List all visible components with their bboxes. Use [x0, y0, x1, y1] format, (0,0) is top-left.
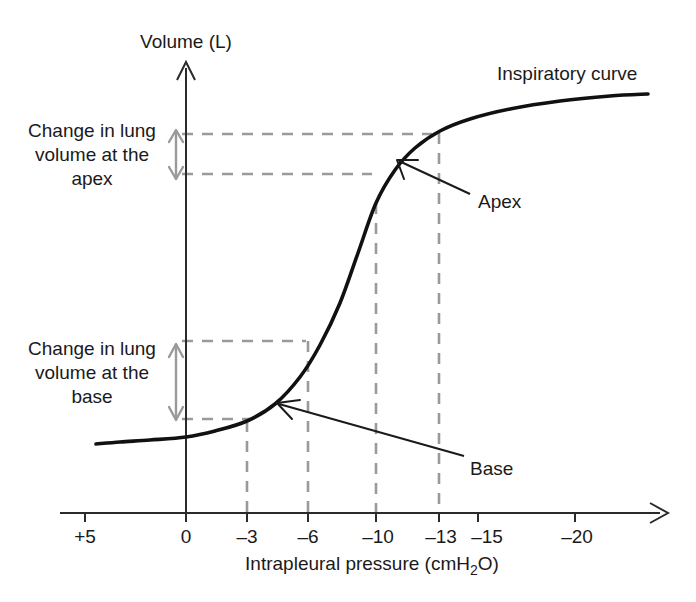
base-change-note-line1: Change in lung — [28, 338, 156, 359]
x-axis-title-main: Intrapleural pressure (cmH — [245, 553, 470, 574]
y-axis-title: Volume (L) — [140, 31, 232, 52]
x-axis-title-tail: O) — [478, 553, 499, 574]
x-tick-label-minus3: –3 — [236, 526, 257, 547]
x-tick-label-plus5: +5 — [74, 526, 96, 547]
x-tick-label-minus15: –15 — [471, 526, 503, 547]
base-change-note-line3: base — [71, 386, 112, 407]
apex-change-note-line3: apex — [71, 168, 113, 189]
base-pointer — [277, 400, 464, 456]
compliance-chart: Volume (L) Intrapleural pressure (cmH2O)… — [0, 0, 696, 602]
apex-change-span-arrow — [169, 130, 183, 179]
apex-change-note: Change in lung volume at the apex — [28, 120, 156, 189]
base-change-span-arrow — [169, 344, 183, 420]
x-tick-label-minus20: –20 — [561, 526, 593, 547]
inspiratory-curve-group — [96, 94, 648, 444]
apex-pointer-shaft — [399, 161, 470, 194]
x-tick-labels: +5 0 –3 –6 –10 –13 –15 –20 — [74, 526, 593, 547]
apex-label: Apex — [478, 191, 522, 212]
apex-change-note-line1: Change in lung — [28, 120, 156, 141]
x-axis-title: Intrapleural pressure (cmH2O) — [245, 553, 499, 578]
inspiratory-curve-path — [96, 94, 648, 444]
lung-compliance-figure: Volume (L) Intrapleural pressure (cmH2O)… — [0, 0, 696, 602]
x-tick-label-minus6: –6 — [297, 526, 318, 547]
x-tick-label-zero: 0 — [181, 526, 192, 547]
base-change-note-line2: volume at the — [35, 362, 149, 383]
apex-change-note-line2: volume at the — [35, 144, 149, 165]
base-change-note: Change in lung volume at the base — [28, 338, 156, 407]
x-tick-label-minus13: –13 — [425, 526, 457, 547]
inspiratory-curve-label: Inspiratory curve — [497, 63, 637, 84]
apex-pointer — [397, 160, 470, 194]
x-axis-title-subscript: 2 — [470, 562, 478, 578]
base-label: Base — [470, 458, 513, 479]
x-tick-label-minus10: –10 — [362, 526, 394, 547]
guide-lines — [182, 133, 439, 513]
